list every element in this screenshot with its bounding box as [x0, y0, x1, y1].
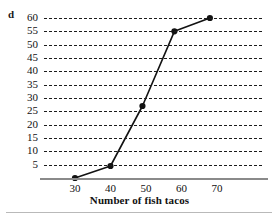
chart-figure: d 60555045403530252015105 3040506070 Num… [0, 0, 279, 223]
line-series [44, 14, 262, 178]
x-axis-tick-label: 50 [131, 183, 161, 194]
y-axis-tick-label: 50 [4, 39, 38, 50]
gridline [44, 138, 262, 139]
gridline [44, 18, 262, 19]
gridline [44, 151, 262, 152]
x-axis-title: Number of fish tacos [0, 194, 279, 206]
data-point-marker [139, 103, 145, 109]
y-axis-tick-label: 30 [4, 92, 38, 103]
x-axis-tick-label: 70 [202, 183, 232, 194]
gridline [44, 71, 262, 72]
gridline [44, 165, 262, 166]
y-axis-tick-label: 25 [4, 105, 38, 116]
gridline [44, 125, 262, 126]
gridline [44, 45, 262, 46]
y-axis-tick-label: 40 [4, 65, 38, 76]
y-axis-tick-label: 5 [4, 159, 38, 170]
x-axis-tick-label: 60 [167, 183, 197, 194]
y-axis-tick-label: 45 [4, 52, 38, 63]
gridline [44, 98, 262, 99]
y-axis-tick-label: 35 [4, 79, 38, 90]
x-axis-tick-label: 30 [60, 183, 90, 194]
y-axis-tick-label: 20 [4, 119, 38, 130]
gridline [44, 58, 262, 59]
y-axis-tick-label: 10 [4, 145, 38, 156]
y-axis-tick-label: 55 [4, 25, 38, 36]
y-axis-tick-label: 60 [4, 12, 38, 23]
page-divider-rule [6, 212, 272, 213]
gridline [44, 31, 262, 32]
x-axis-line [40, 178, 268, 180]
gridline [44, 111, 262, 112]
y-axis-tick-label: 15 [4, 132, 38, 143]
x-axis-tick-label: 40 [96, 183, 126, 194]
plot-area: 60555045403530252015105 [44, 14, 262, 178]
gridline [44, 85, 262, 86]
